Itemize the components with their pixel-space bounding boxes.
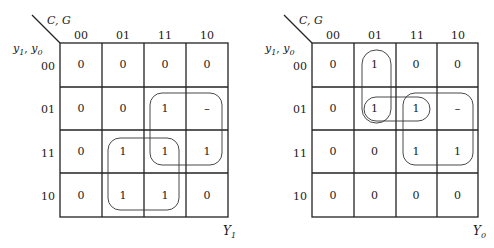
cell-r11-c11: 1 — [395, 130, 437, 174]
row-variables-label: y1, y0 — [265, 43, 295, 58]
cell-r00-c01: 0 — [102, 43, 144, 87]
output-label: Y0 — [473, 224, 486, 240]
column-header: 10 — [437, 29, 479, 42]
cell-r11-c10: 1 — [437, 130, 479, 174]
row-variables-label: y1, y0 — [13, 43, 43, 58]
column-variables-label: C, G — [299, 15, 323, 26]
output-label: Y1 — [223, 224, 236, 240]
column-header: 11 — [144, 29, 186, 42]
cell-r00-c10: 0 — [437, 43, 479, 87]
cell-r01-c10: – — [186, 87, 228, 131]
cell-r11-c11: 1 — [144, 130, 186, 174]
cell-r01-c00: 0 — [312, 87, 354, 131]
column-header: 10 — [186, 29, 228, 42]
row-header: 00 — [290, 60, 310, 73]
row-header: 10 — [290, 190, 310, 203]
cell-r10-c01: 1 — [102, 174, 144, 218]
cell-r10-c00: 0 — [312, 174, 354, 218]
row-header: 11 — [290, 147, 310, 160]
cell-r00-c10: 0 — [186, 43, 228, 87]
cell-r00-c00: 0 — [312, 43, 354, 87]
row-header: 00 — [38, 60, 58, 73]
cell-r01-c11: 1 — [395, 87, 437, 131]
cell-r01-c00: 0 — [60, 87, 102, 131]
cell-r01-c01: 1 — [354, 87, 396, 131]
column-variables-label: C, G — [47, 15, 71, 26]
cell-r11-c00: 0 — [312, 130, 354, 174]
column-header: 00 — [60, 29, 102, 42]
cell-r01-c10: – — [437, 87, 479, 131]
cell-r01-c01: 0 — [102, 87, 144, 131]
row-header: 01 — [38, 103, 58, 116]
row-header: 10 — [38, 190, 58, 203]
cell-r01-c11: 1 — [144, 87, 186, 131]
column-header: 11 — [396, 29, 438, 42]
karnaugh-map-y1: C, G y1, y0 00 01 11 10 00 01 11 10 0000… — [0, 0, 247, 248]
karnaugh-map-y0: C, G y1, y0 00 01 11 10 00 01 11 10 0100… — [251, 0, 494, 248]
column-header: 01 — [354, 29, 396, 42]
row-header: 01 — [290, 103, 310, 116]
cell-r00-c11: 0 — [395, 43, 437, 87]
column-header: 00 — [312, 29, 354, 42]
cell-r10-c01: 0 — [354, 174, 396, 218]
cell-r10-c00: 0 — [60, 174, 102, 218]
cell-r11-c01: 1 — [102, 130, 144, 174]
cell-r11-c10: 1 — [186, 130, 228, 174]
row-header: 11 — [38, 147, 58, 160]
cell-r00-c11: 0 — [144, 43, 186, 87]
cell-r10-c11: 0 — [395, 174, 437, 218]
cell-r11-c01: 0 — [354, 130, 396, 174]
column-header: 01 — [102, 29, 144, 42]
cell-r00-c01: 1 — [354, 43, 396, 87]
cell-r11-c00: 0 — [60, 130, 102, 174]
cell-r10-c10: 0 — [186, 174, 228, 218]
cell-r00-c00: 0 — [60, 43, 102, 87]
cell-r10-c11: 1 — [144, 174, 186, 218]
cell-r10-c10: 0 — [437, 174, 479, 218]
